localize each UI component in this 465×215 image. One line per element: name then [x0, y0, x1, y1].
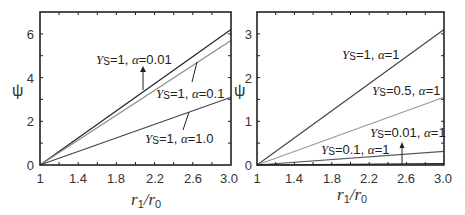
x-tick-label: 2.6	[397, 171, 415, 186]
right-chart: 0 1 2 3 ψ 1 1.4 1.8 2.2 2.6 3.0 r1/r0 YS…	[234, 12, 452, 205]
y-tick-label: 2	[27, 114, 34, 129]
y-axis-label: ψ	[12, 82, 23, 99]
arrow-head-icon	[400, 142, 405, 148]
pointer-line	[183, 112, 189, 130]
annotation-ys001-a1: YS=0.01, α=1	[370, 125, 446, 140]
x-tick-label: 1.4	[69, 171, 87, 186]
x-tick-label: 2.2	[146, 171, 164, 186]
x-tick-label: 3.0	[434, 171, 452, 186]
x-axis-label: r1/r0	[131, 190, 161, 210]
y-tick-label: 0	[245, 158, 252, 173]
x-tick-label: 1.8	[323, 171, 341, 186]
left-chart: 0 2 4 6 ψ 1 1.4 1.8 2.2 2.6 3.0 r1/r0 YS…	[12, 12, 238, 210]
annotation-ys1-a01: YS=1, α=0.1	[156, 86, 224, 101]
y-tick-label: 4	[27, 71, 34, 86]
annotation-ys01-a1: YS=0.1, α=1	[321, 142, 389, 157]
x-tick-label: 1.8	[107, 171, 125, 186]
annotation-ys1-a1: YS=1, α=1	[342, 47, 400, 62]
y-tick-label: 1	[245, 114, 252, 129]
y-tick-label: 0	[27, 158, 34, 173]
y-tick-label: 3	[245, 27, 252, 42]
y-tick-label: 6	[27, 27, 34, 42]
annotation-ys1-a001: YS=1, α=0.01	[96, 52, 172, 67]
figure: 0 2 4 6 ψ 1 1.4 1.8 2.2 2.6 3.0 r1/r0 YS…	[0, 0, 465, 215]
x-tick-label: 3.0	[220, 171, 238, 186]
x-tick-label: 1	[36, 171, 43, 186]
annotation-ys1-a1: YS=1, α=1.0	[145, 131, 213, 146]
x-tick-label: 2.6	[184, 171, 202, 186]
y-tick-label: 2	[245, 71, 252, 86]
annotation-ys05-a1: YS=0.5, α=1	[372, 83, 440, 98]
x-tick-label: 1	[253, 171, 260, 186]
x-tick-label: 2.2	[360, 171, 378, 186]
y-axis-label: ψ	[234, 82, 245, 99]
x-axis-label: r1/r0	[337, 185, 367, 205]
x-tick-label: 1.4	[285, 171, 303, 186]
